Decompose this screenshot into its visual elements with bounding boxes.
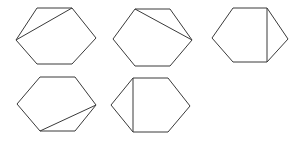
hexagon-5-group: [111, 78, 190, 132]
hexagon-1-group: [16, 8, 96, 64]
hexagon-4-group: [17, 77, 96, 131]
hexagon-3-outline: [212, 8, 288, 62]
hexagon-1-diagonal: [16, 8, 72, 40]
hexagon-figure-canvas: [0, 0, 299, 143]
hexagon-2-outline: [113, 9, 192, 66]
hexagon-2-group: [113, 9, 192, 66]
hexagon-3-group: [212, 8, 288, 62]
hexagon-4-diagonal: [40, 105, 96, 131]
hexagon-2-diagonal: [135, 9, 192, 40]
hexagon-1-outline: [16, 8, 96, 64]
hexagon-5-outline: [111, 78, 190, 132]
